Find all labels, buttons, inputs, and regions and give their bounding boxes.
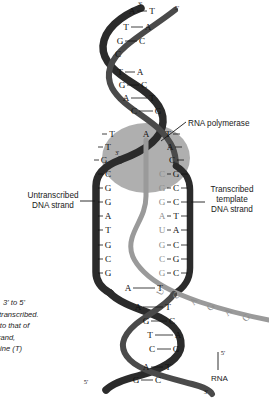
base-letter-template: C — [173, 240, 179, 250]
base-letter: G — [119, 80, 126, 90]
base-letter: T — [149, 93, 155, 103]
rna-base-letter: A — [222, 306, 234, 318]
base-letter-untranscribed: T — [105, 142, 111, 152]
base-letter-template: G — [173, 254, 180, 264]
label-transcribed-line3: DNA strand — [198, 205, 266, 215]
base-letter-template: T — [173, 211, 179, 221]
base-letter-untranscribed: G — [101, 155, 108, 165]
base-letter-untranscribed: T — [109, 129, 115, 139]
label-transcribed-line2: template — [198, 195, 266, 205]
base-letter-template: C — [173, 197, 179, 207]
base-letter-untranscribed: G — [105, 183, 112, 193]
base-letter: A — [135, 302, 142, 312]
rna-base-letter: G — [205, 301, 217, 313]
base-letter-untranscribed: G — [105, 268, 112, 278]
base-letter-template: A — [167, 142, 174, 152]
base-letter-untranscribed: C — [105, 254, 111, 264]
caption-line: 3' to 5' — [3, 297, 96, 309]
base-letter: A — [145, 22, 152, 32]
label-rna: RNA — [211, 374, 228, 384]
label-untranscribed-dna-strand: Untranscribed DNA strand — [14, 191, 92, 211]
base-letter: C — [139, 36, 145, 46]
base-letter: T — [147, 330, 153, 340]
caption-line: strand, — [0, 332, 96, 344]
base-letter-template: A — [173, 225, 180, 235]
base-letter: T — [117, 67, 123, 77]
base-letter-untranscribed: G — [105, 240, 112, 250]
base-letter: T — [165, 302, 171, 312]
end-marker-5prime-bottom-left: 5' — [84, 378, 88, 385]
base-letter-untranscribed: T — [105, 225, 111, 235]
base-letter-rna: G — [159, 197, 166, 207]
caption-line: l to that of — [0, 320, 96, 332]
base-letter-rna: G — [159, 268, 166, 278]
base-letter: G — [117, 36, 124, 46]
base-letter-rna: G — [159, 240, 166, 250]
base-letter: A — [175, 330, 182, 340]
base-letter: C — [149, 344, 155, 354]
base-letter-rna: C — [159, 169, 165, 179]
base-letter-mid: A — [143, 129, 150, 139]
base-letter: G — [143, 316, 150, 326]
rna-base-letter: G — [240, 312, 252, 324]
base-letter: C — [131, 106, 137, 116]
base-letter-template: G — [173, 169, 180, 179]
base-letter: A — [143, 362, 150, 372]
base-letter: A — [125, 283, 132, 293]
base-letter-rna: U — [159, 225, 166, 235]
base-letter: C — [141, 80, 147, 90]
end-marker-3prime-bottom-right: 3' — [204, 388, 208, 395]
base-letter: C — [169, 316, 175, 326]
figure-canvas: ATTAGCCTAGCATCG TTATAGCCGCGCGGCGATATAUGC… — [0, 0, 269, 398]
base-letter: A — [137, 67, 144, 77]
end-marker-5prime-rna: 5' — [221, 349, 225, 356]
base-letter-rna: G — [159, 183, 166, 193]
base-letter: A — [123, 93, 130, 103]
caption-line: ymine (T) — [0, 343, 96, 355]
base-letter: C — [155, 375, 161, 385]
base-letter-rna: C — [159, 254, 165, 264]
label-untranscribed-line1: Untranscribed — [14, 191, 92, 201]
end-marker-3prime-bubble: 3' — [115, 149, 119, 156]
base-letter-rna: A — [159, 211, 166, 221]
label-untranscribed-line2: DNA strand — [14, 201, 92, 211]
figure-caption: 3' to 5'transcribed.l to that ofstrand,y… — [0, 297, 96, 355]
base-letter-untranscribed: A — [105, 211, 112, 221]
base-letter-template: C — [173, 183, 179, 193]
base-letter: T — [165, 362, 171, 372]
base-letter: G — [173, 344, 180, 354]
label-transcribed-line1: Transcribed — [198, 185, 266, 195]
base-letter-untranscribed: C — [105, 169, 111, 179]
base-letter: T — [123, 22, 129, 32]
end-marker-5prime-top-right: 5' — [175, 4, 179, 11]
base-letter: T — [149, 6, 155, 16]
end-marker-3prime-top-left: 3' — [138, 0, 142, 7]
caption-line: transcribed. — [0, 309, 96, 321]
label-rna-polymerase: RNA polymerase — [188, 119, 249, 129]
base-letter: A — [129, 6, 136, 16]
base-letter: G — [155, 106, 162, 116]
base-letter: G — [133, 375, 140, 385]
base-letter-template: C — [173, 268, 179, 278]
base-letter-untranscribed: G — [105, 197, 112, 207]
base-letter-template: C — [169, 155, 175, 165]
rna-base-letter: A — [188, 295, 200, 307]
label-transcribed-template-dna-strand: Transcribed template DNA strand — [198, 185, 266, 215]
base-letter-template: T — [165, 129, 171, 139]
base-letter: C — [115, 49, 121, 59]
